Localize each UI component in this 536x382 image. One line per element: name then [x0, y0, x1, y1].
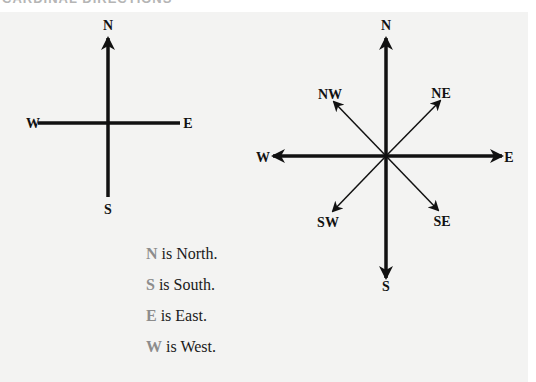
label-nw: NW — [318, 87, 342, 102]
legend-text: is North. — [158, 245, 218, 262]
compass-diagrams: N S W E N S W E NW NE SW SE — [0, 0, 536, 382]
arrow-northwest — [334, 102, 386, 156]
legend-text: is West. — [162, 338, 216, 355]
legend-key: W — [146, 338, 162, 355]
legend-item: S is South. — [146, 275, 218, 306]
label-n: N — [381, 18, 391, 33]
label-se: SE — [433, 214, 450, 229]
arrow-northeast — [386, 101, 440, 156]
legend-key: N — [146, 245, 158, 262]
label-s: S — [382, 279, 390, 294]
label-s: S — [104, 202, 112, 217]
label-w: W — [26, 116, 40, 131]
legend-item: E is East. — [146, 306, 218, 337]
arrow-southeast — [386, 156, 438, 210]
label-e: E — [504, 150, 513, 165]
label-sw: SW — [317, 215, 339, 230]
direction-legend: N is North. S is South. E is East. W is … — [146, 244, 218, 368]
legend-text: is South. — [155, 276, 215, 293]
label-w: W — [256, 150, 270, 165]
legend-key: S — [146, 276, 155, 293]
legend-item: W is West. — [146, 337, 218, 368]
full-compass: N S W E NW NE SW SE — [256, 18, 514, 294]
legend-item: N is North. — [146, 244, 218, 275]
legend-text: is East. — [157, 307, 207, 324]
arrow-southwest — [333, 156, 386, 211]
label-e: E — [183, 116, 192, 131]
label-ne: NE — [431, 86, 450, 101]
simple-compass: N S W E — [26, 18, 193, 217]
legend-key: E — [146, 307, 157, 324]
label-n: N — [103, 18, 113, 33]
